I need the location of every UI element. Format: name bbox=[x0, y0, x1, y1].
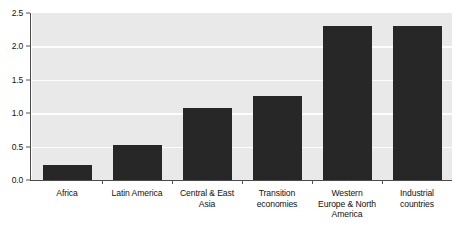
bar bbox=[43, 165, 92, 180]
bar bbox=[393, 26, 442, 180]
gridline bbox=[32, 113, 452, 115]
x-axis-category-label-line: Asia bbox=[172, 199, 242, 210]
y-axis-tick-label: 2.5 bbox=[12, 9, 23, 18]
y-axis-tick-label: 0.0 bbox=[12, 176, 23, 185]
x-axis-category-label-line: Central & East bbox=[172, 188, 242, 199]
x-axis-category-label-line: America bbox=[312, 209, 382, 220]
bar bbox=[113, 145, 162, 180]
x-axis-category-label-line: Europe & North bbox=[312, 199, 382, 210]
bar bbox=[253, 96, 302, 180]
x-axis-tick-mark bbox=[102, 180, 103, 184]
y-axis-tick-label: 2.0 bbox=[12, 42, 23, 51]
y-axis: 2.52.01.51.00.50.0 bbox=[0, 0, 30, 231]
x-axis-category-label-line: Transition bbox=[242, 188, 312, 199]
plot-area bbox=[32, 13, 452, 180]
x-axis-category-label: Africa bbox=[32, 188, 102, 199]
y-axis-tick-label: 0.5 bbox=[12, 142, 23, 151]
x-axis-category-label-line: economies bbox=[242, 199, 312, 210]
x-axis: AfricaLatin AmericaCentral & EastAsiaTra… bbox=[32, 188, 452, 231]
x-axis-category-label-line: Western bbox=[312, 188, 382, 199]
bar bbox=[323, 26, 372, 180]
x-axis-category-label: Latin America bbox=[102, 188, 172, 199]
x-axis-category-label-line: Africa bbox=[32, 188, 102, 199]
x-axis-category-label-line: Latin America bbox=[102, 188, 172, 199]
bar-chart: 2.52.01.51.00.50.0 AfricaLatin AmericaCe… bbox=[0, 0, 462, 231]
x-axis-tick-mark bbox=[242, 180, 243, 184]
x-axis-tick-mark bbox=[172, 180, 173, 184]
x-axis-tick-mark bbox=[382, 180, 383, 184]
x-axis-category-label-line: Industrial bbox=[382, 188, 452, 199]
bar bbox=[183, 108, 232, 180]
y-axis-tick-label: 1.0 bbox=[12, 109, 23, 118]
x-axis-category-label: Transitioneconomies bbox=[242, 188, 312, 209]
x-axis-category-label: Industrialcountries bbox=[382, 188, 452, 209]
gridline bbox=[32, 80, 452, 82]
y-axis-tick-label: 1.5 bbox=[12, 76, 23, 85]
x-axis-tick-mark bbox=[312, 180, 313, 184]
gridline bbox=[32, 46, 452, 48]
x-axis-category-label: Central & EastAsia bbox=[172, 188, 242, 209]
x-axis-line bbox=[30, 180, 452, 181]
x-axis-category-label: WesternEurope & NorthAmerica bbox=[312, 188, 382, 220]
x-axis-category-label-line: countries bbox=[382, 199, 452, 210]
gridline bbox=[32, 147, 452, 149]
